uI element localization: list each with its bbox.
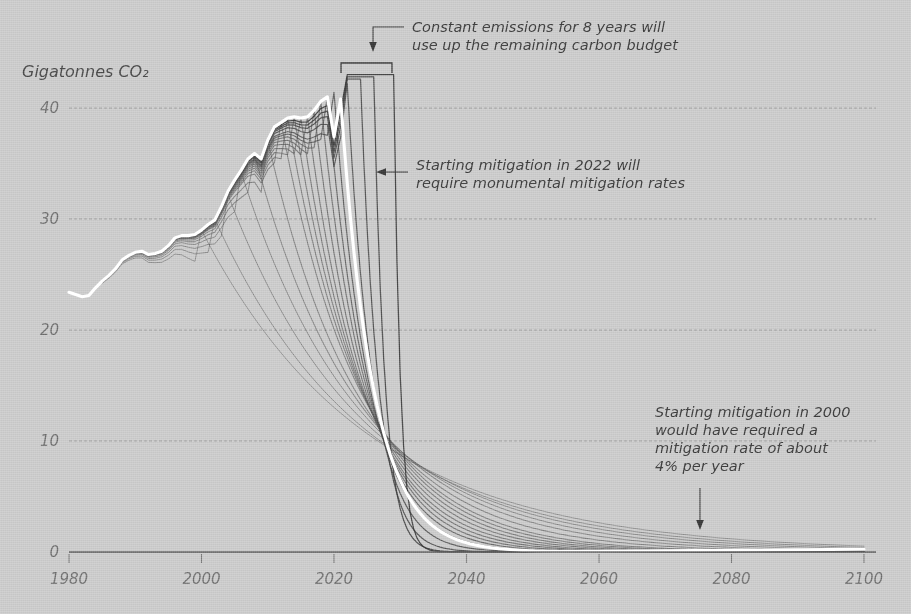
x-tick-label-2100: 2100: [845, 570, 883, 588]
chart-canvas: 0102030401980200020202040206020802100 Gi…: [0, 0, 911, 614]
leader-line-constant-emissions: [373, 27, 404, 42]
emissions-chart: 0102030401980200020202040206020802100 Gi…: [0, 0, 911, 614]
annotation-mitigation-2000: Starting mitigation in 2000 would have r…: [655, 404, 851, 530]
annotation-mitigation-2000-line2: would have required a: [655, 422, 818, 438]
scenario-curve-2010: [102, 140, 864, 551]
bracket-constant-emissions: [341, 63, 392, 73]
annotation-mitigation-2000-line1: Starting mitigation in 2000: [655, 404, 851, 420]
annotation-mitigation-2000-line3: mitigation rate of about: [655, 440, 829, 456]
arrowhead-left-icon: [376, 168, 386, 176]
y-tick-label-0: 0: [49, 543, 59, 561]
scenario-curve-2026: [102, 77, 864, 552]
annotation-mitigation-2022-line1: Starting mitigation in 2022 will: [416, 157, 640, 173]
scenario-curve-2022: [102, 84, 864, 552]
scenario-curve-2029: [102, 75, 864, 552]
y-tick-label-40: 40: [40, 99, 59, 117]
y-tick-label-20: 20: [40, 321, 59, 339]
x-tick-label-2040: 2040: [447, 570, 485, 588]
y-axis-title: Gigatonnes CO₂: [22, 62, 149, 81]
arrowhead-down-icon: [369, 42, 377, 52]
scenario-curve-2024: [102, 79, 864, 551]
x-tick-label-2020: 2020: [315, 570, 353, 588]
y-tick-label-10: 10: [40, 432, 59, 450]
x-tick-label-2060: 2060: [580, 570, 618, 588]
x-tick-label-2000: 2000: [182, 570, 220, 588]
annotation-constant-emissions-line1: Constant emissions for 8 years will: [412, 19, 665, 35]
x-tick-label-1980: 1980: [50, 570, 88, 588]
annotation-mitigation-2022: Starting mitigation in 2022 will require…: [376, 157, 685, 191]
x-tick-label-2080: 2080: [712, 570, 750, 588]
arrowhead-down-icon-2: [696, 520, 704, 530]
annotation-constant-emissions-line2: use up the remaining carbon budget: [412, 37, 679, 53]
scenario-curve-2000: [102, 230, 864, 546]
scenario-curves: [102, 75, 864, 552]
y-tick-label-30: 30: [40, 210, 59, 228]
annotation-mitigation-2022-line2: require monumental mitigation rates: [416, 175, 685, 191]
annotation-constant-emissions: Constant emissions for 8 years will use …: [341, 19, 679, 73]
annotation-mitigation-2000-line4: 4% per year: [655, 458, 745, 474]
